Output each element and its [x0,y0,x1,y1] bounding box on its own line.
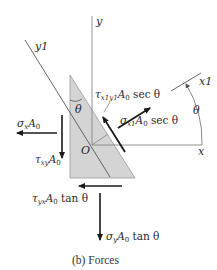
tau-x1y1-label: τx1y1A0 sec θ [95,88,160,102]
tau-xy-label: τxyA0 [35,153,61,167]
stress-element [70,75,135,178]
x1-axis [171,73,201,91]
x-axis-label: x [198,145,205,158]
tau-x1y1-leader [104,102,110,112]
x1-axis-label: x1 [199,75,212,88]
y1-axis-label: y1 [34,40,48,53]
figure-caption: (b) Forces [72,254,119,267]
origin-label: O [81,144,90,157]
sigma-y-label: σyA0 tan θ [106,230,159,244]
theta-label-axes: θ [193,104,200,117]
sigma-x1-label: σx1A0 sec θ [120,114,178,128]
tau-yx-label: τyxA0 tan θ [32,192,88,206]
force-diagram: y x O y1 x1 θ θ σxA0 τxyA0 τyxA0 tan θ σ… [0,0,217,270]
theta-label-element: θ [75,103,82,116]
y-axis-label: y [95,15,103,28]
sigma-x-label: σxA0 [17,117,40,131]
